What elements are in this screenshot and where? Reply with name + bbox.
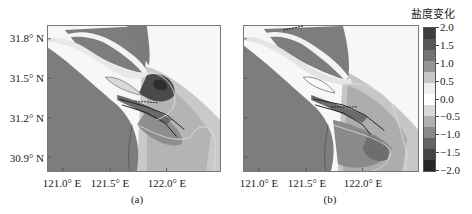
x-tick-label: 122.0° E bbox=[148, 177, 187, 189]
salinity-map-a bbox=[48, 26, 220, 171]
colorbar-tick-label: −0.5 bbox=[440, 110, 460, 122]
colorbar-band bbox=[424, 61, 435, 72]
colorbar-band bbox=[424, 149, 435, 160]
y-tick-label: 31.8° N bbox=[0, 32, 44, 44]
colorbar-band bbox=[424, 50, 435, 61]
colorbar-band bbox=[424, 39, 435, 50]
x-tick-label: 121.0° E bbox=[43, 177, 82, 189]
y-tick-label: 31.2° N bbox=[0, 112, 44, 124]
map-panel-a bbox=[47, 25, 221, 172]
colorbar-tick-mark bbox=[436, 81, 439, 82]
colorbar-band bbox=[424, 83, 435, 94]
x-tick-label: 122.0° E bbox=[344, 177, 383, 189]
x-tick-label: 121.0° E bbox=[240, 177, 279, 189]
colorbar-tick-mark bbox=[436, 152, 439, 153]
y-tick-label: 30.9° N bbox=[0, 152, 44, 164]
colorbar-tick-label: 0.5 bbox=[440, 75, 454, 87]
y-tick-label: 31.5° N bbox=[0, 72, 44, 84]
colorbar-tick-label: −1.0 bbox=[440, 128, 460, 140]
colorbar-band bbox=[424, 116, 435, 127]
colorbar-band bbox=[424, 94, 435, 105]
x-tick-label: 121.5° E bbox=[91, 177, 130, 189]
salinity-map-b bbox=[244, 26, 418, 171]
colorbar-tick-label: −2.0 bbox=[440, 164, 460, 176]
colorbar-tick-mark bbox=[436, 170, 439, 171]
colorbar-tick-mark bbox=[436, 99, 439, 100]
colorbar-band bbox=[424, 160, 435, 171]
panel-caption-a: (a) bbox=[131, 193, 143, 205]
x-tick-label: 121.5° E bbox=[288, 177, 327, 189]
colorbar-tick-mark bbox=[436, 134, 439, 135]
colorbar-tick-mark bbox=[436, 27, 439, 28]
colorbar-band bbox=[424, 127, 435, 138]
panel-caption-b: (b) bbox=[324, 193, 337, 205]
colorbar-tick-label: 1.0 bbox=[440, 57, 454, 69]
colorbar bbox=[423, 27, 436, 172]
colorbar-band bbox=[424, 28, 435, 39]
colorbar-band bbox=[424, 138, 435, 149]
colorbar-tick-label: 0.0 bbox=[440, 93, 454, 105]
colorbar-title: 盐度变化 bbox=[411, 5, 455, 21]
colorbar-tick-label: −1.5 bbox=[440, 146, 460, 158]
colorbar-tick-label: 2.0 bbox=[440, 21, 454, 33]
colorbar-band bbox=[424, 105, 435, 116]
colorbar-tick-label: 1.5 bbox=[440, 39, 454, 51]
colorbar-tick-mark bbox=[436, 116, 439, 117]
colorbar-tick-mark bbox=[436, 63, 439, 64]
map-panel-b bbox=[243, 25, 419, 172]
colorbar-band bbox=[424, 72, 435, 83]
colorbar-tick-mark bbox=[436, 45, 439, 46]
